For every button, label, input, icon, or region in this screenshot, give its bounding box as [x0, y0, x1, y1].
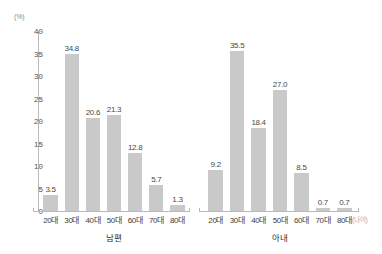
x-axis-category-label: 40대 — [248, 214, 269, 225]
x-axis-cap-mid-left — [189, 208, 190, 212]
bar-item: 1.3 — [170, 31, 184, 211]
bar-value-label: 21.3 — [107, 105, 121, 114]
group-title-husband: 남편 — [40, 231, 188, 243]
bar-item: 35.5 — [230, 31, 245, 211]
bar-value-label: 27.0 — [273, 80, 287, 89]
bar-group-husband: 3.534.820.621.312.85.71.3 — [40, 31, 188, 211]
bar — [316, 208, 331, 211]
bar-value-label: 9.2 — [211, 160, 221, 169]
x-axis-category-label: 20대 — [40, 214, 61, 225]
x-axis-category-label: 30대 — [61, 214, 82, 225]
bar-item: 34.8 — [65, 31, 79, 211]
bar — [170, 205, 184, 211]
x-axis-line-wife — [199, 211, 359, 212]
y-axis-tick: 15 — [0, 144, 43, 145]
x-axis-cap-right — [358, 208, 359, 212]
bar-value-label: 35.5 — [230, 41, 244, 50]
bar-item: 21.3 — [107, 31, 121, 211]
bar-item: 20.6 — [86, 31, 100, 211]
bar-chart: (%) 0510152025303540 3.534.820.621.312.8… — [0, 0, 382, 254]
x-axis-category-label: 50대 — [269, 214, 290, 225]
y-axis-tick: 35 — [0, 54, 43, 55]
bar-value-label: 3.5 — [45, 185, 55, 194]
bar-value-label: 18.4 — [251, 118, 265, 127]
y-axis-tick: 5 — [0, 189, 43, 190]
x-axis-cap-mid-right — [199, 208, 200, 212]
x-axis-category-label: 40대 — [82, 214, 103, 225]
bar — [65, 54, 79, 211]
bar — [149, 185, 163, 211]
x-axis-category-label: 30대 — [226, 214, 247, 225]
x-axis-category-label: 60대 — [125, 214, 146, 225]
y-axis-tick: 25 — [0, 99, 43, 100]
y-axis-tick: 30 — [0, 76, 43, 77]
bar-value-label: 20.6 — [86, 108, 100, 117]
bar — [294, 173, 309, 211]
y-axis-unit-label: (%) — [14, 13, 24, 20]
x-axis-category-label: 20대 — [205, 214, 226, 225]
x-axis-category-label: 80대 — [167, 214, 188, 225]
y-axis-tick: 40 — [0, 31, 43, 32]
bar-item: 0.7 — [337, 31, 352, 211]
bar-item: 3.5 — [43, 31, 57, 211]
bar-value-label: 5.7 — [151, 175, 161, 184]
bar-group-wife: 9.235.518.427.08.50.70.7 — [205, 31, 355, 211]
y-axis-tick: 10 — [0, 166, 43, 167]
bar-item: 9.2 — [208, 31, 223, 211]
bar — [337, 208, 352, 211]
bar-item: 12.8 — [128, 31, 142, 211]
bar-value-label: 12.8 — [128, 143, 142, 152]
x-axis-line-husband — [33, 211, 190, 212]
x-axis-category-label: 60대 — [291, 214, 312, 225]
bar-item: 5.7 — [149, 31, 163, 211]
x-axis-category-label: 50대 — [103, 214, 124, 225]
bar-item: 18.4 — [251, 31, 266, 211]
group-title-wife: 아내 — [205, 231, 355, 243]
y-axis-tick: 20 — [0, 121, 43, 122]
bar-value-label: 8.5 — [296, 163, 306, 172]
x-axis-unit-label: (나이) — [352, 214, 368, 224]
bar — [128, 153, 142, 211]
bar — [107, 115, 121, 211]
x-axis-category-label: 70대 — [312, 214, 333, 225]
bar-item: 0.7 — [316, 31, 331, 211]
bar-value-label: 34.8 — [65, 44, 79, 53]
bar-item: 27.0 — [273, 31, 288, 211]
bar — [43, 195, 57, 211]
bar — [273, 90, 288, 212]
bar — [251, 128, 266, 211]
x-axis-category-label: 70대 — [146, 214, 167, 225]
x-axis-cap-left — [33, 208, 34, 212]
bar-value-label: 1.3 — [172, 195, 182, 204]
bar — [86, 118, 100, 211]
bar — [230, 51, 245, 211]
bar-item: 8.5 — [294, 31, 309, 211]
bar-value-label: 0.7 — [318, 198, 328, 207]
bar-value-label: 0.7 — [339, 198, 349, 207]
bar — [208, 170, 223, 211]
